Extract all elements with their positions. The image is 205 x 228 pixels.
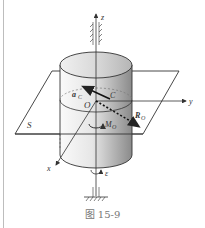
angular-acceleration-icon: ε — [91, 169, 109, 178]
y-axis-label: y — [188, 97, 193, 106]
figure-caption: 图 15-9 — [0, 206, 205, 221]
resultant-force-sub: O — [141, 115, 146, 121]
moment-sub: O — [112, 124, 117, 130]
rigid-body-rotation-diagram: z ε y x O a C C R O M O — [0, 0, 205, 228]
origin-label: O — [84, 100, 91, 110]
z-axis-label: z — [100, 13, 105, 22]
resultant-force-label: R — [134, 111, 141, 120]
epsilon-label: ε — [105, 169, 109, 178]
acceleration-label: a — [72, 90, 76, 99]
plane-label: S — [27, 120, 32, 130]
x-axis-label: x — [46, 164, 51, 173]
center-of-mass-label: C — [110, 91, 116, 100]
